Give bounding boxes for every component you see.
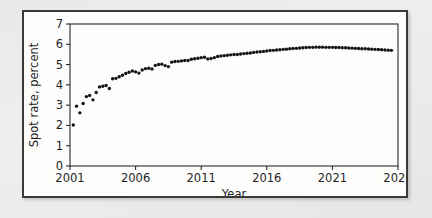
data-point bbox=[324, 46, 327, 49]
data-point bbox=[282, 48, 285, 51]
data-point bbox=[203, 56, 206, 59]
data-point bbox=[111, 77, 114, 80]
data-point bbox=[386, 48, 389, 51]
data-point bbox=[186, 59, 189, 62]
scatter-chart: 01234567200120062011201620212026YearSpot… bbox=[24, 12, 406, 196]
data-point bbox=[154, 64, 157, 67]
data-point bbox=[380, 48, 383, 51]
data-point bbox=[170, 60, 173, 63]
data-point bbox=[252, 51, 255, 54]
data-point bbox=[206, 57, 209, 60]
x-tick-label: 2026 bbox=[383, 171, 406, 185]
data-point bbox=[350, 46, 353, 49]
data-point bbox=[78, 111, 81, 114]
data-point bbox=[334, 46, 337, 49]
data-point bbox=[121, 74, 124, 77]
data-point bbox=[337, 46, 340, 49]
plot-frame bbox=[70, 24, 398, 166]
data-point bbox=[314, 45, 317, 48]
data-point bbox=[268, 49, 271, 52]
data-point bbox=[72, 123, 75, 126]
x-tick-label: 2006 bbox=[121, 171, 150, 185]
data-point bbox=[390, 49, 393, 52]
chart-panel: 01234567200120062011201620212026YearSpot… bbox=[22, 10, 408, 198]
data-point bbox=[101, 85, 104, 88]
data-point bbox=[239, 52, 242, 55]
data-point bbox=[147, 67, 150, 70]
data-point bbox=[157, 63, 160, 66]
data-point bbox=[144, 67, 147, 70]
data-point bbox=[245, 52, 248, 55]
data-point bbox=[278, 48, 281, 51]
y-tick-label: 6 bbox=[56, 37, 63, 51]
data-point bbox=[347, 46, 350, 49]
x-tick-label: 2021 bbox=[318, 171, 347, 185]
data-point bbox=[373, 48, 376, 51]
data-point bbox=[357, 47, 360, 50]
data-point bbox=[262, 50, 265, 53]
y-tick-label: 1 bbox=[56, 139, 63, 153]
data-point bbox=[344, 46, 347, 49]
data-point bbox=[160, 62, 163, 65]
data-point bbox=[291, 47, 294, 50]
data-point bbox=[216, 55, 219, 58]
data-point bbox=[370, 47, 373, 50]
data-point bbox=[364, 47, 367, 50]
data-point bbox=[341, 46, 344, 49]
data-point bbox=[236, 53, 239, 56]
data-point bbox=[163, 64, 166, 67]
data-point bbox=[75, 104, 78, 107]
data-point bbox=[81, 102, 84, 105]
data-point bbox=[331, 46, 334, 49]
data-point bbox=[318, 45, 321, 48]
data-point bbox=[304, 46, 307, 49]
data-point bbox=[131, 69, 134, 72]
data-point bbox=[190, 58, 193, 61]
data-point bbox=[229, 53, 232, 56]
data-point bbox=[150, 67, 153, 70]
y-axis-title: Spot rate, percent bbox=[27, 42, 41, 147]
data-point bbox=[213, 56, 216, 59]
x-axis-title: Year bbox=[221, 187, 247, 196]
data-point bbox=[321, 45, 324, 48]
y-tick-label: 2 bbox=[56, 118, 63, 132]
data-point bbox=[288, 47, 291, 50]
data-point bbox=[173, 60, 176, 63]
data-point bbox=[180, 59, 183, 62]
data-point bbox=[91, 98, 94, 101]
data-point bbox=[272, 49, 275, 52]
data-point bbox=[118, 75, 121, 78]
x-tick-label: 2001 bbox=[55, 171, 84, 185]
data-point bbox=[377, 48, 380, 51]
data-point bbox=[298, 46, 301, 49]
data-point bbox=[124, 72, 127, 75]
data-point bbox=[193, 57, 196, 60]
data-point bbox=[196, 57, 199, 60]
figure-root: 01234567200120062011201620212026YearSpot… bbox=[0, 0, 432, 218]
y-tick-label: 4 bbox=[56, 78, 63, 92]
data-point bbox=[360, 47, 363, 50]
data-point bbox=[88, 94, 91, 97]
y-tick-label: 5 bbox=[56, 58, 63, 72]
data-point bbox=[232, 53, 235, 56]
data-point bbox=[327, 46, 330, 49]
data-point bbox=[275, 48, 278, 51]
data-point bbox=[127, 71, 130, 74]
data-point bbox=[301, 46, 304, 49]
data-point bbox=[177, 60, 180, 63]
data-point bbox=[108, 87, 111, 90]
y-tick-label: 7 bbox=[56, 17, 63, 31]
data-point bbox=[219, 54, 222, 57]
data-point bbox=[95, 91, 98, 94]
data-point bbox=[222, 54, 225, 57]
data-point bbox=[259, 50, 262, 53]
data-point bbox=[295, 47, 298, 50]
data-point bbox=[354, 47, 357, 50]
data-point bbox=[98, 85, 101, 88]
data-point bbox=[85, 95, 88, 98]
y-tick-label: 3 bbox=[56, 98, 63, 112]
data-point bbox=[285, 47, 288, 50]
data-point bbox=[265, 49, 268, 52]
data-point bbox=[104, 84, 107, 87]
data-point bbox=[367, 47, 370, 50]
